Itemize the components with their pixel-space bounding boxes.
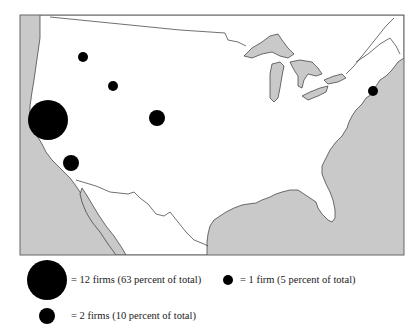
legend-large-label: = 12 firms (63 percent of total) bbox=[71, 274, 201, 286]
legend-large-circle bbox=[27, 260, 67, 300]
legend-medium-circle bbox=[39, 308, 55, 324]
legend-small-circle bbox=[223, 275, 233, 285]
legend-small-label: = 1 firm (5 percent of total) bbox=[240, 274, 356, 286]
marker-2-firms bbox=[63, 155, 79, 171]
marker-12-firms bbox=[28, 100, 68, 140]
marker-1-firm bbox=[368, 86, 378, 96]
marker-1-firm bbox=[108, 81, 118, 91]
marker-2-firms bbox=[149, 110, 165, 126]
marker-1-firm bbox=[78, 52, 88, 62]
legend-medium-label: = 2 firms (10 percent of total) bbox=[71, 310, 196, 322]
